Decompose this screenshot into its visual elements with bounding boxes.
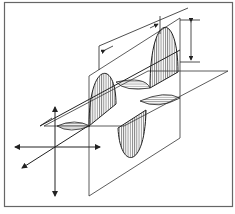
frame [5,3,233,207]
coordinate-axes [15,107,100,196]
horizontal-wave-lobes [57,80,180,130]
em-wave-diagram [0,0,235,214]
amplitude-marker [180,20,200,62]
propagation-axis [40,50,180,126]
